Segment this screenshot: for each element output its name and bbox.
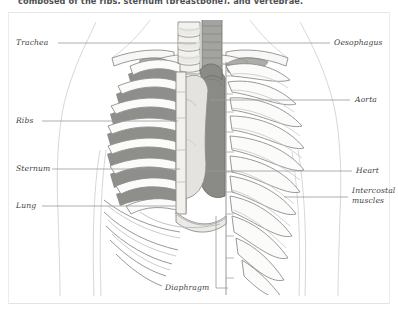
sternum [176, 72, 186, 214]
label-aorta: Aorta [355, 95, 377, 105]
label-intercostal-line1: Intercostal [352, 186, 395, 195]
label-sternum: Sternum [16, 164, 50, 174]
label-ribs: Ribs [16, 116, 34, 126]
label-lung: Lung [16, 201, 36, 211]
label-intercostal-line2: muscles [352, 196, 384, 205]
thorax-figure: composed of the ribs, sternum (breastbon… [0, 0, 398, 321]
rib-cage-left [104, 60, 187, 286]
thorax-illustration [0, 0, 398, 321]
label-diaphragm: Diaphragm [165, 283, 209, 293]
label-intercostal-muscles: Intercostal muscles [352, 186, 395, 205]
diaphragm [140, 212, 226, 232]
label-oesophagus: Oesophagus [334, 38, 383, 48]
label-heart: Heart [356, 166, 379, 176]
trachea-structure [178, 22, 200, 74]
rib-cage-right [226, 62, 304, 298]
label-trachea: Trachea [16, 38, 48, 48]
